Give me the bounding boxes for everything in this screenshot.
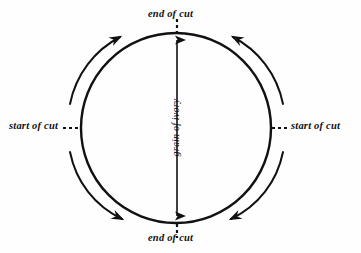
label-end-of-cut-bottom: end of cut bbox=[148, 232, 193, 243]
rotation-arrow-top-left bbox=[70, 37, 120, 104]
rotation-arrow-bottom-left bbox=[70, 152, 122, 219]
label-start-of-cut-right: start of cut bbox=[291, 120, 340, 131]
label-end-of-cut-top: end of cut bbox=[148, 8, 193, 19]
label-start-of-cut-left: start of cut bbox=[9, 120, 58, 131]
label-grain-of-ivory: grain of ivory bbox=[170, 58, 181, 198]
rotation-arrow-bottom-right bbox=[231, 152, 283, 219]
rotation-arrow-top-right bbox=[233, 37, 283, 104]
diagram-canvas: end of cut end of cut start of cut start… bbox=[0, 0, 361, 253]
